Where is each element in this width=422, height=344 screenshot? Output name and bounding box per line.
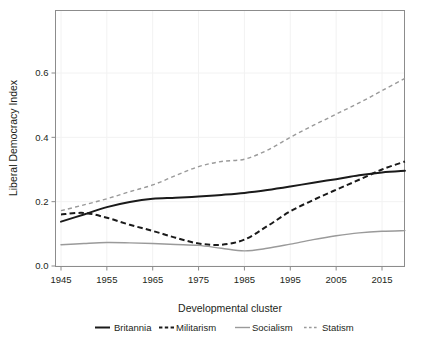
x-tick-label: 1985: [234, 274, 255, 285]
x-tick-label: 2015: [371, 274, 392, 285]
liberal-democracy-index-line-chart: 0.00.20.40.6 194519551965197519851995200…: [0, 0, 422, 344]
x-tick-label: 1995: [280, 274, 301, 285]
x-tick-label: 1965: [142, 274, 163, 285]
legend-label-militarism: Militarism: [176, 322, 216, 333]
legend-label-britannia: Britannia: [114, 322, 152, 333]
legend-label-statism: Statism: [322, 322, 354, 333]
chart-background: [0, 0, 422, 344]
x-tick-label: 2005: [326, 274, 347, 285]
x-tick-label: 1955: [96, 274, 117, 285]
y-axis-title: Liberal Democracy Index: [7, 79, 19, 196]
x-tick-label: 1945: [50, 274, 71, 285]
legend-label-socialism: Socialism: [252, 322, 293, 333]
x-axis-title: Developmental cluster: [178, 302, 282, 314]
chart-container: 0.00.20.40.6 194519551965197519851995200…: [0, 0, 422, 344]
y-tick-label: 0.0: [35, 260, 48, 271]
y-tick-label: 0.2: [35, 196, 48, 207]
x-tick-label: 1975: [188, 274, 209, 285]
y-tick-label: 0.4: [35, 132, 48, 143]
y-tick-label: 0.6: [35, 67, 48, 78]
